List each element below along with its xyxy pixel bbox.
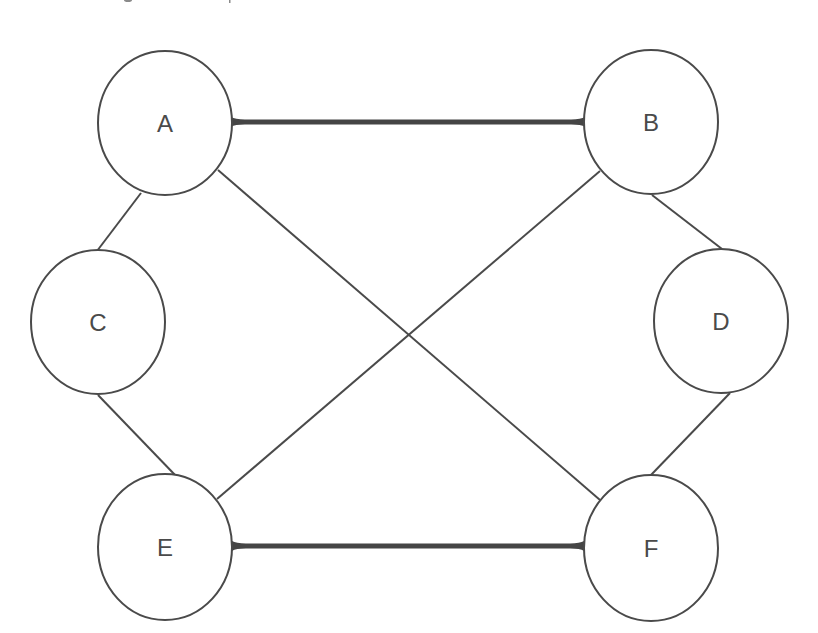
node-label: D: [712, 308, 729, 335]
node-e: E: [98, 474, 232, 620]
edge-b-d: [652, 195, 722, 249]
edge-e-f: [232, 541, 584, 551]
cropped-title-fragment: [124, 0, 231, 3]
node-label: B: [643, 109, 659, 136]
edge-c-e: [98, 395, 176, 476]
edge-a-c: [97, 193, 141, 251]
node-d: D: [654, 249, 788, 393]
edge-a-b: [231, 117, 585, 127]
node-label: C: [89, 309, 106, 336]
node-c: C: [31, 250, 165, 394]
node-b: B: [584, 50, 718, 194]
graph-diagram: ABCDEF: [0, 0, 818, 633]
node-label: A: [157, 110, 173, 137]
node-a: A: [98, 51, 232, 195]
edge-d-f: [651, 393, 730, 475]
node-f: F: [584, 475, 718, 621]
node-label: E: [157, 534, 173, 561]
node-label: F: [644, 535, 659, 562]
